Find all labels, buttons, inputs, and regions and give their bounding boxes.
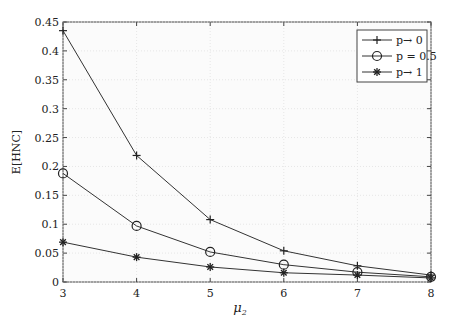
y-tick-label: 0.2 [42, 160, 60, 173]
x-tick-label: 6 [280, 287, 287, 300]
y-tick-label: 0 [52, 276, 59, 289]
y-tick-label: 0.3 [42, 103, 60, 116]
legend-entry: p = 0.5 [396, 50, 437, 63]
x-tick-label: 3 [60, 287, 67, 300]
x-tick-label: 8 [428, 287, 435, 300]
legend: p→ 0p = 0.5p→ 1 [357, 30, 437, 82]
y-tick-label: 0.1 [42, 218, 60, 231]
y-tick-label: 0.05 [35, 247, 60, 260]
y-tick-label: 0.45 [35, 16, 60, 29]
y-tick-label: 0.4 [42, 45, 60, 58]
y-tick-label: 0.25 [35, 132, 60, 145]
y-tick-label: 0.15 [35, 189, 60, 202]
line-chart: 00.050.10.150.20.250.30.350.40.45 345678… [0, 0, 458, 330]
y-tick-label: 0.35 [35, 74, 60, 87]
x-tick-label: 5 [207, 287, 214, 300]
x-axis-label: μ2 [233, 300, 247, 317]
legend-entry: p→ 1 [396, 66, 423, 79]
y-axis-label: E[HNC] [10, 130, 23, 174]
x-tick-label: 7 [354, 287, 361, 300]
legend-entry: p→ 0 [396, 34, 423, 47]
x-tick-label: 4 [133, 287, 140, 300]
